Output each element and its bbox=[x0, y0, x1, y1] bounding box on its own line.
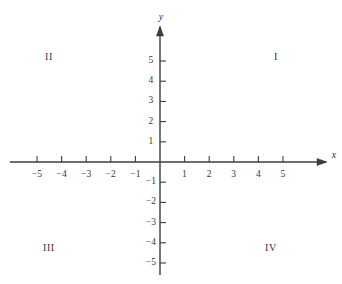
x-tick-label: −3 bbox=[81, 170, 92, 180]
x-axis-label: x bbox=[332, 150, 337, 160]
y-tick-label: 5 bbox=[149, 56, 154, 66]
x-tick-label: 1 bbox=[182, 170, 187, 180]
x-tick-label: −5 bbox=[32, 170, 43, 180]
y-tick-label: −1 bbox=[146, 177, 157, 187]
x-tick-label: 4 bbox=[256, 170, 261, 180]
x-tick-label: −1 bbox=[130, 170, 141, 180]
quadrant-three: III bbox=[43, 243, 55, 253]
x-tick-label: −4 bbox=[56, 170, 67, 180]
x-tick-label: 3 bbox=[231, 170, 236, 180]
y-tick-label: 1 bbox=[149, 137, 154, 147]
y-tick-label: −5 bbox=[146, 258, 157, 268]
y-tick-label: −3 bbox=[146, 218, 157, 228]
x-tick-label: 2 bbox=[207, 170, 212, 180]
coordinate-plane-figure: x y −5−4−3−2−11234554321−1−2−3−4−5IIIIII… bbox=[0, 0, 342, 284]
y-tick-label: −2 bbox=[146, 198, 157, 208]
quadrant-one: I bbox=[274, 52, 278, 62]
x-tick-label: −2 bbox=[106, 170, 117, 180]
y-tick-label: 3 bbox=[149, 97, 154, 107]
y-axis-label: y bbox=[159, 12, 164, 22]
y-tick-label: 2 bbox=[149, 117, 154, 127]
y-tick-label: −4 bbox=[146, 238, 157, 248]
quadrant-four: IV bbox=[265, 243, 277, 253]
y-tick-label: 4 bbox=[149, 76, 154, 86]
y-axis-arrowhead-icon bbox=[156, 26, 163, 36]
quadrant-two: II bbox=[45, 52, 53, 62]
x-axis-arrowhead-icon bbox=[317, 158, 327, 165]
x-tick-label: 5 bbox=[281, 170, 286, 180]
